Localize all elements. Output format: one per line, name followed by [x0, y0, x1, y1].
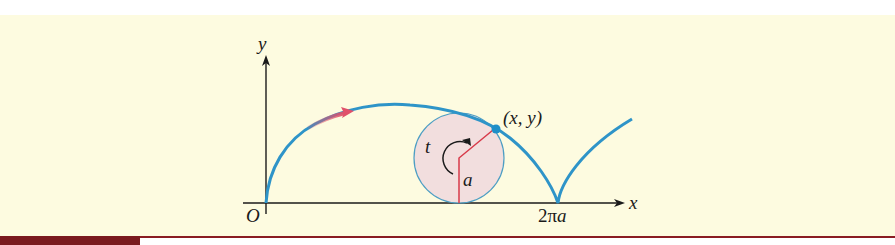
period-suffix: a: [557, 205, 567, 226]
period-label: 2πa: [538, 205, 567, 226]
origin-label: O: [246, 205, 260, 226]
y-axis-label: y: [256, 33, 267, 54]
direction-arrow-trail: [308, 113, 345, 128]
angle-label: t: [425, 136, 431, 157]
traced-point: [492, 125, 501, 134]
radius-label: a: [463, 169, 473, 190]
x-axis-label: x: [628, 192, 638, 213]
cycloid-diagram: y x O (x, y) t a 2πa: [0, 0, 895, 245]
period-prefix: 2π: [538, 205, 558, 226]
point-label: (x, y): [503, 107, 542, 129]
